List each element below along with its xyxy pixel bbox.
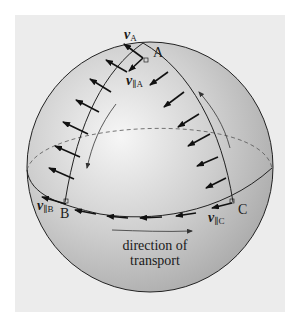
label-vparB: v∥B [37, 199, 53, 214]
caption-line-1: direction of [105, 238, 205, 253]
label-point-A: A [153, 46, 163, 60]
label-point-B: B [60, 207, 69, 221]
sphere-diagram [0, 0, 300, 321]
label-vparA: v∥A [126, 74, 143, 89]
label-point-C: C [238, 203, 247, 217]
label-vA: vA [124, 28, 137, 43]
caption-direction-of-transport: direction of transport [105, 238, 205, 268]
caption-line-2: transport [105, 253, 205, 268]
label-vparC: v∥C [208, 211, 224, 226]
